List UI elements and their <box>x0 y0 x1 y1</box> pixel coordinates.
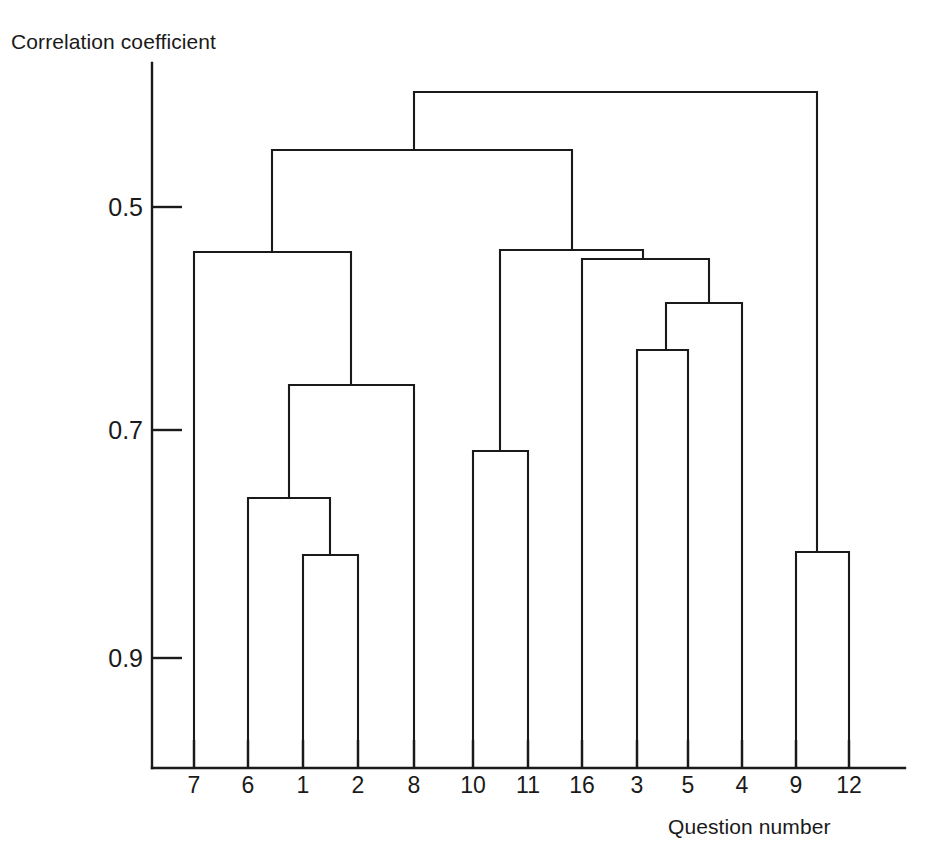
link-6-12 <box>248 498 330 768</box>
link-3-5 <box>637 350 688 768</box>
y-tick-label-0.7: 0.7 <box>108 416 143 444</box>
x-axis-title: Question number <box>668 815 831 839</box>
y-tick-label-0.9: 0.9 <box>108 644 143 672</box>
link-7-6128 <box>194 252 351 768</box>
link-16-354 <box>582 259 709 768</box>
x-tick-label-0: 7 <box>188 772 201 798</box>
x-tick-label-2: 1 <box>297 772 310 798</box>
x-tick-label-12: 12 <box>836 772 862 798</box>
x-tick-label-9: 5 <box>682 772 695 798</box>
x-tick-label-4: 8 <box>408 772 421 798</box>
link-root <box>414 92 817 552</box>
x-tick-label-7: 16 <box>569 772 595 798</box>
link-612-8 <box>289 385 414 768</box>
link-10-11 <box>473 451 528 768</box>
x-tick-label-8: 3 <box>631 772 644 798</box>
link-1011-16354 <box>500 250 643 451</box>
x-tick-label-10: 4 <box>736 772 749 798</box>
link-35-4 <box>666 303 742 768</box>
x-tick-label-11: 9 <box>790 772 803 798</box>
x-tick-label-5: 10 <box>460 772 486 798</box>
x-tick-label-1: 6 <box>242 772 255 798</box>
x-tick-label-6: 11 <box>516 772 540 798</box>
link-1-2 <box>303 555 358 768</box>
x-tick-label-3: 2 <box>352 772 365 798</box>
dendrogram-figure: Correlation coefficient 0.5 0.7 0.9 <box>0 0 938 867</box>
link-9-12 <box>796 552 849 768</box>
y-tick-label-0.5: 0.5 <box>108 193 143 221</box>
dendrogram-plot: 0.5 0.7 0.9 <box>0 0 938 867</box>
link-leftgroup-midgroup <box>272 150 572 252</box>
